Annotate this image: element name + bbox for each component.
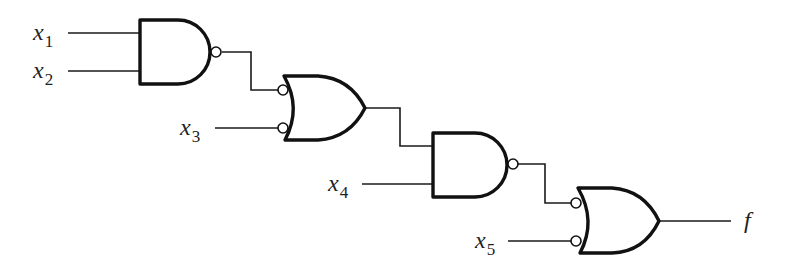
output-bubble-icon	[508, 159, 518, 169]
label-base: x	[180, 114, 191, 140]
logic-circuit-diagram: x1 x2 x3 x4 x5 f	[0, 0, 788, 272]
label-output-f: f	[744, 208, 751, 232]
label-x5: x5	[475, 228, 495, 258]
wire-g1-to-g2	[222, 52, 279, 90]
label-subscript: 4	[340, 183, 349, 202]
nand-gate-1	[140, 20, 221, 84]
label-x1: x1	[33, 20, 53, 50]
label-subscript: 2	[45, 70, 54, 89]
or-gate-2	[278, 76, 365, 140]
wire-g3-to-g4	[517, 164, 572, 203]
label-base: x	[33, 57, 44, 83]
label-x4: x4	[328, 171, 348, 201]
input-bubble-icon	[571, 198, 581, 208]
label-base: x	[33, 19, 44, 45]
label-subscript: 3	[192, 127, 201, 146]
input-bubble-icon	[278, 123, 288, 133]
label-base: f	[744, 207, 751, 233]
input-bubble-icon	[278, 85, 288, 95]
label-subscript: 1	[45, 32, 54, 51]
output-bubble-icon	[211, 47, 221, 57]
label-base: x	[475, 227, 486, 253]
circuit-drawing	[0, 0, 788, 272]
label-subscript: 5	[487, 240, 496, 259]
label-x2: x2	[33, 58, 53, 88]
or-gate-4	[571, 188, 659, 253]
nand-gate-3	[433, 133, 518, 197]
input-bubble-icon	[571, 236, 581, 246]
label-x3: x3	[180, 115, 200, 145]
wire-g2-to-g3	[365, 108, 433, 146]
label-base: x	[328, 170, 339, 196]
